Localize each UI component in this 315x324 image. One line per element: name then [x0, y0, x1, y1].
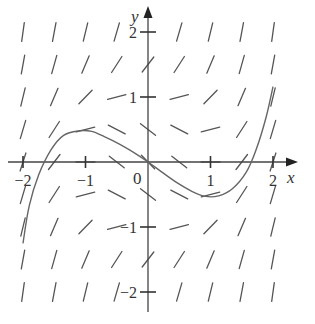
slope-segment [240, 23, 244, 42]
y-axis-arrow-icon [144, 6, 153, 18]
slope-segment [53, 283, 57, 302]
slope-segment [272, 283, 275, 302]
slope-segment [272, 23, 275, 42]
slope-segment [270, 120, 275, 138]
slope-segment [21, 88, 25, 106]
slope-segment [82, 251, 89, 268]
slope-segment [208, 283, 212, 301]
slope-segment [22, 283, 25, 302]
x-tick-label: 2 [269, 172, 277, 189]
slope-segment [108, 125, 125, 134]
slope-segment [51, 218, 59, 235]
slope-segment [239, 55, 244, 73]
slope-segment [83, 23, 87, 41]
slope-segment [201, 127, 219, 132]
slope-segment [204, 90, 217, 104]
y-tick-label: 1 [129, 89, 137, 106]
slope-segment [52, 250, 57, 268]
y-tick-label: −1 [120, 219, 137, 236]
slope-segment [49, 187, 59, 203]
slope-segment [171, 190, 188, 199]
slope-segment [237, 122, 247, 138]
x-tick-label: 1 [207, 172, 215, 189]
slope-segment [238, 88, 246, 105]
origin-label: 0 [133, 169, 142, 188]
x-tick-label: −2 [14, 172, 31, 189]
slope-segment [240, 283, 244, 302]
slope-segment [112, 57, 122, 73]
slope-segment [114, 23, 119, 41]
slope-segment [79, 220, 92, 234]
slope-segment [174, 252, 184, 268]
slope-segment [52, 55, 57, 73]
slope-segment [171, 125, 188, 134]
slope-segment [177, 23, 182, 41]
slope-segment [82, 56, 89, 73]
slope-segment [177, 283, 182, 301]
y-tick-label: −2 [120, 284, 137, 301]
slope-segment [271, 55, 274, 74]
slope-segment [204, 220, 217, 234]
x-tick-label: −1 [77, 172, 94, 189]
slope-segment [170, 95, 188, 100]
y-tick-label: 2 [129, 24, 137, 41]
slope-segment [53, 23, 57, 42]
slope-segment [271, 218, 275, 236]
slope-segment [114, 283, 119, 301]
slope-segment [207, 56, 214, 73]
slope-segment [271, 250, 274, 269]
slope-segment [21, 55, 24, 74]
slope-segment [49, 122, 59, 138]
slope-segment [108, 190, 125, 199]
slope-segment [174, 57, 184, 73]
slope-segment [51, 88, 59, 105]
slope-segment [112, 252, 122, 268]
x-axis-arrow-icon [286, 158, 298, 167]
slope-segment [239, 250, 244, 268]
slope-segment [79, 90, 92, 104]
slope-segment [108, 95, 126, 100]
slope-segment [238, 218, 246, 235]
slope-segment [170, 225, 188, 230]
slope-segment [237, 187, 247, 203]
slope-segment [22, 23, 25, 42]
slope-segment [76, 192, 94, 197]
slope-segment [83, 283, 87, 301]
y-axis-label: y [129, 7, 139, 26]
slope-segment [207, 251, 214, 268]
slope-segment [21, 250, 24, 269]
slope-segment [20, 120, 25, 138]
x-axis-label: x [286, 168, 295, 187]
slope-field-diagram: −2−112 21−1−2 x y 0 [0, 0, 315, 324]
slope-segment [208, 23, 212, 41]
